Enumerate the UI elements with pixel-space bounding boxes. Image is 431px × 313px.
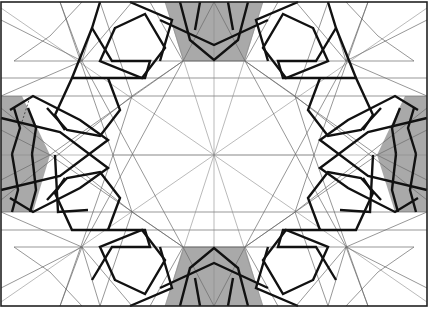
strap-bottom-right-pentagon <box>263 230 328 294</box>
construction-horizontals <box>1 2 427 306</box>
geometric-pattern-figure <box>0 0 431 313</box>
strap-bottom-left-pentagon <box>100 230 165 294</box>
pattern-svg <box>0 0 431 313</box>
strap-top-right-pentagon <box>263 14 328 78</box>
shade-right-middle <box>377 96 427 212</box>
strap-top-left-pentagon <box>100 14 165 78</box>
